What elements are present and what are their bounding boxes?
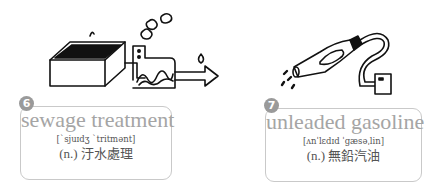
vocab-card-6: sewage treatment [ˋsjuɪdʒ ˋtritmənt] (n.… [20, 106, 172, 180]
gas-nozzle-illustration [280, 22, 400, 102]
sewage-treatment-illustration [45, 8, 225, 93]
item-number-badge: 6 [19, 96, 34, 111]
pronunciation: [ˋsjuɪdʒ ˋtritmənt] [21, 133, 171, 146]
vocab-card-7: unleaded gasoline [ʌnˈlɛdɪd ˈgæsəˌlin] (… [265, 108, 422, 182]
translation: (n.) 無鉛汽油 [266, 148, 421, 164]
pronunciation: [ʌnˈlɛdɪd ˈgæsəˌlin] [266, 135, 421, 148]
item-number-badge: 7 [264, 98, 279, 113]
translation: (n.) 汙水處理 [21, 146, 171, 162]
term: unleaded gasoline [266, 110, 421, 134]
term: sewage treatment [21, 108, 171, 132]
